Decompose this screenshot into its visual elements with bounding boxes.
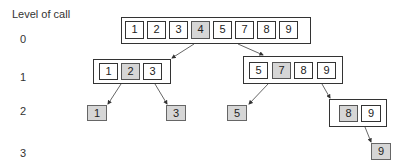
arrow-l0-to-l1-left <box>172 44 194 58</box>
arrow-l1right-to-5 <box>249 84 268 104</box>
cell: 3 <box>143 63 162 80</box>
level-label-3: 3 <box>20 147 26 159</box>
diagram-title: Level of call <box>12 8 70 20</box>
leaf-cell-9: 9 <box>371 143 391 160</box>
cell: 5 <box>249 62 268 79</box>
cell: 1 <box>99 63 118 80</box>
cell: 9 <box>279 21 298 39</box>
pivot-cell: 7 <box>272 62 291 79</box>
leaf-cell-3: 3 <box>166 105 186 121</box>
node-level0: 1 2 3 4 5 7 8 9 <box>121 17 311 44</box>
arrow-l1right-to-89 <box>322 84 330 98</box>
arrow-l2-to-9 <box>365 127 371 142</box>
arrow-l0-to-l1-right <box>238 44 263 55</box>
cell: 5 <box>213 21 232 39</box>
arrow-l1left-to-3 <box>155 84 167 104</box>
cell: 9 <box>317 62 336 79</box>
node-level1-right: 5 7 8 9 <box>243 56 343 84</box>
pivot-cell: 8 <box>339 105 358 122</box>
cell: 7 <box>235 21 254 39</box>
cell: 8 <box>294 62 313 79</box>
cell: 1 <box>125 21 144 39</box>
level-label-0: 0 <box>20 33 26 45</box>
level-label-2: 2 <box>20 105 26 117</box>
arrow-l1left-to-1 <box>108 84 121 104</box>
node-level2-right: 8 9 <box>329 99 387 127</box>
cell: 2 <box>147 21 166 39</box>
level-label-1: 1 <box>20 71 26 83</box>
cell: 3 <box>169 21 188 39</box>
pivot-cell: 4 <box>191 21 210 39</box>
cell: 9 <box>361 105 381 122</box>
leaf-cell-1: 1 <box>87 105 107 121</box>
cell: 8 <box>257 21 276 39</box>
pivot-cell: 2 <box>121 63 140 80</box>
leaf-cell-5: 5 <box>227 105 247 121</box>
node-level1-left: 1 2 3 <box>93 59 171 84</box>
